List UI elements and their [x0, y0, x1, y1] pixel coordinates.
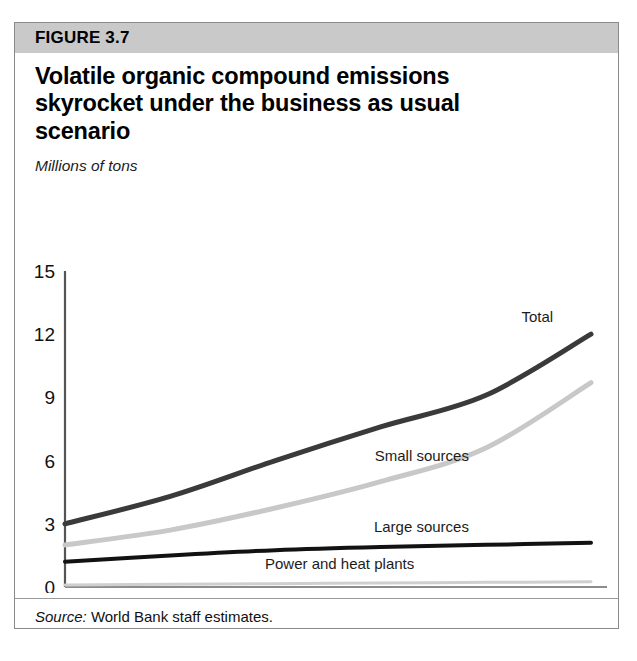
series-label: Small sources: [375, 447, 469, 464]
source-prefix: Source:: [35, 608, 87, 625]
figure-title: Volatile organic compound emissions skyr…: [35, 63, 555, 145]
y-axis-tick: 9: [44, 387, 55, 408]
y-axis-tick-labels: 03691215: [34, 263, 55, 593]
figure-card: FIGURE 3.7 Volatile organic compound emi…: [14, 22, 619, 629]
y-axis-tick: 0: [44, 577, 55, 593]
source-text: World Bank staff estimates.: [91, 608, 273, 625]
chart-plot-area: 03691215 199520002005201020152020 TotalS…: [15, 263, 618, 593]
y-axis-tick: 6: [44, 451, 55, 472]
y-axis-tick: 12: [34, 324, 55, 345]
chart-unit-label: Millions of tons: [35, 157, 602, 175]
source-divider: [15, 598, 618, 599]
figure-body: Volatile organic compound emissions skyr…: [15, 63, 618, 639]
series-label: Large sources: [374, 518, 469, 535]
figure-number-label: FIGURE 3.7: [35, 28, 130, 48]
series-label: Total: [521, 308, 553, 325]
y-axis-tick: 3: [44, 514, 55, 535]
series-label: Power and heat plants: [265, 555, 414, 572]
chart-series-labels: TotalSmall sourcesLarge sourcesPower and…: [265, 308, 553, 573]
y-axis-tick: 15: [34, 263, 55, 282]
series-line: [65, 582, 591, 585]
figure-header-band: FIGURE 3.7: [15, 23, 618, 53]
chart-series-lines: [65, 334, 591, 585]
series-line: [65, 383, 591, 545]
line-chart-svg: 03691215 199520002005201020152020 TotalS…: [15, 263, 618, 593]
source-note: Source: World Bank staff estimates.: [35, 608, 273, 625]
